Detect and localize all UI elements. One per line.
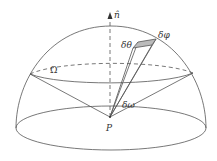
cone-left-edge [30, 74, 110, 117]
label-normal: n̂ [114, 11, 120, 20]
label-delta-omega: δω [122, 101, 135, 110]
label-delta-theta: δθ [121, 41, 132, 50]
normal-arrow-icon [108, 12, 113, 19]
dome-outline [16, 26, 206, 128]
solid-angle-patch [133, 39, 156, 48]
hemisphere-diagram [0, 0, 217, 161]
label-point-p: P [106, 124, 112, 133]
label-delta-phi: δφ [158, 31, 170, 40]
label-omega-region: Ω [50, 66, 57, 75]
